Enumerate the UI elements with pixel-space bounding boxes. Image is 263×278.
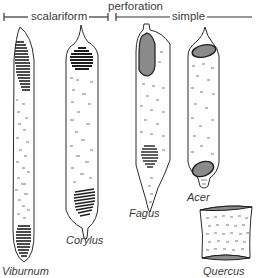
acer-vessel (188, 27, 219, 188)
viburnum-label: Viburnum (2, 266, 49, 277)
simple-label: simple (170, 11, 207, 23)
quercus-vessel (200, 206, 252, 260)
vessel-element-figure: perforation scalariform simple Viburnum … (0, 0, 263, 278)
fagus-label: Fagus (129, 208, 160, 219)
vessel-diagram-graphics (0, 0, 263, 278)
acer-label: Acer (187, 192, 210, 203)
scalariform-label: scalariform (29, 11, 89, 23)
corylus-label: Corylus (66, 235, 103, 246)
quercus-label: Quercus (203, 266, 245, 277)
fagus-vessel (136, 24, 170, 212)
corylus-vessel (66, 25, 98, 239)
perforation-label: perforation (106, 1, 165, 13)
viburnum-vessel (13, 27, 34, 262)
